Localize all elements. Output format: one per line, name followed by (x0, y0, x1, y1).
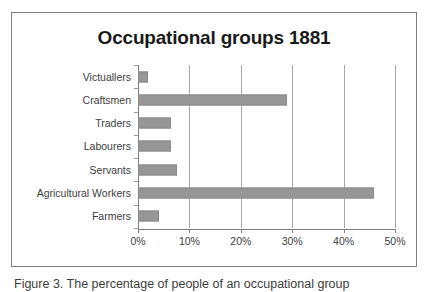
chart-frame: Occupational groups 1881 VictuallersCraf… (11, 12, 417, 267)
y-tick-mark (134, 112, 138, 113)
category-label-craftsmen: Craftsmen (83, 94, 131, 106)
chart-title: Occupational groups 1881 (12, 27, 416, 49)
bar-row: Traders (138, 112, 395, 135)
figure-caption: Figure 3. The percentage of people of an… (14, 277, 418, 291)
bar-servants[interactable] (138, 164, 177, 175)
x-tick-label-50pct: 50% (384, 235, 405, 247)
category-label-victuallers: Victuallers (83, 71, 131, 83)
y-tick-mark (134, 205, 138, 206)
category-label-servants: Servants (90, 164, 131, 176)
x-tick-label-40pct: 40% (333, 235, 354, 247)
bar-row: Farmers (138, 205, 395, 228)
bar-labourers[interactable] (138, 141, 171, 152)
x-axis-line (138, 229, 396, 230)
gridline-50pct (395, 65, 396, 228)
x-tick-mark (344, 229, 345, 233)
category-label-traders: Traders (95, 117, 131, 129)
bar-row: Agricultural Workers (138, 181, 395, 204)
y-tick-mark (134, 88, 138, 89)
x-tick-label-20pct: 20% (230, 235, 251, 247)
category-label-labourers: Labourers (84, 140, 131, 152)
plot-area: VictuallersCraftsmenTradersLabourersServ… (138, 65, 395, 228)
x-tick-label-0pct: 0% (130, 235, 145, 247)
y-tick-mark (134, 135, 138, 136)
category-label-agricultural-workers: Agricultural Workers (37, 187, 131, 199)
category-label-farmers: Farmers (92, 210, 131, 222)
x-tick-mark (395, 229, 396, 233)
bar-row: Labourers (138, 135, 395, 158)
x-tick-mark (138, 229, 139, 233)
bar-row: Servants (138, 158, 395, 181)
bar-victuallers[interactable] (138, 71, 148, 82)
bar-agricultural-workers[interactable] (138, 188, 374, 199)
figure-container: Occupational groups 1881 VictuallersCraf… (0, 0, 430, 292)
bar-craftsmen[interactable] (138, 94, 287, 105)
x-tick-mark (292, 229, 293, 233)
x-tick-label-10pct: 10% (179, 235, 200, 247)
y-tick-mark (134, 181, 138, 182)
bar-traders[interactable] (138, 118, 171, 129)
y-tick-mark (134, 158, 138, 159)
y-tick-mark (134, 65, 138, 66)
bar-row: Victuallers (138, 65, 395, 88)
x-tick-mark (241, 229, 242, 233)
x-tick-mark (189, 229, 190, 233)
x-tick-label-30pct: 30% (282, 235, 303, 247)
bar-row: Craftsmen (138, 88, 395, 111)
bar-farmers[interactable] (138, 211, 159, 222)
